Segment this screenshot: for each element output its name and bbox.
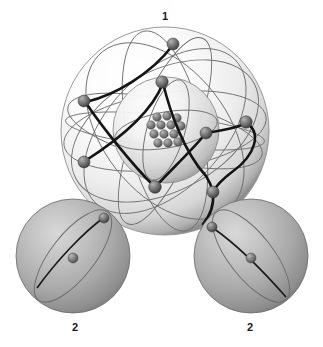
nucleon bbox=[163, 112, 172, 121]
electron bbox=[78, 156, 90, 168]
electron bbox=[167, 38, 179, 50]
small-atom-left-electron bbox=[99, 213, 109, 223]
electron bbox=[78, 95, 90, 107]
electron bbox=[156, 76, 168, 88]
nucleon bbox=[160, 130, 169, 139]
figure-canvas: 1 2 2 bbox=[0, 0, 323, 347]
atom-diagram bbox=[0, 0, 323, 347]
electron bbox=[240, 116, 252, 128]
electron bbox=[200, 127, 212, 139]
electron bbox=[149, 181, 162, 194]
nucleon bbox=[164, 139, 173, 148]
label-small-atom-right: 2 bbox=[235, 321, 265, 333]
small-atom-right-group bbox=[194, 198, 308, 313]
label-small-atom-left: 2 bbox=[60, 321, 90, 333]
nucleon bbox=[153, 113, 162, 122]
electron bbox=[207, 186, 219, 198]
nucleon bbox=[157, 121, 166, 130]
small-atom-right-nucleus bbox=[246, 253, 256, 263]
nucleon bbox=[147, 121, 156, 130]
small-atom-left-nucleus bbox=[68, 253, 78, 263]
small-atom-right-electron bbox=[207, 222, 217, 232]
nucleon bbox=[150, 130, 159, 139]
nucleon bbox=[154, 139, 163, 148]
nucleon bbox=[170, 130, 179, 139]
label-large-atom: 1 bbox=[150, 10, 180, 22]
small-atom-left-group bbox=[16, 198, 130, 313]
